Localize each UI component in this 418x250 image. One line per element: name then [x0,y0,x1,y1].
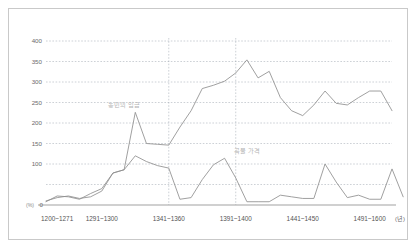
y-axis-tick-label: 150 [32,140,43,147]
y-axis-tick-label: 400 [32,37,43,44]
y-axis-labels-group: (%)0100150200250300350400 [26,37,44,208]
gridlines-group [46,41,392,185]
series-lines-group [46,60,403,202]
y-axis-tick-label: 350 [32,58,43,65]
series-labels-group: 농민의 임금곡물 가격 [108,101,260,154]
series-label: 곡물 가격 [234,147,260,155]
y-axis-unit-label: (%) [26,202,34,208]
y-axis-tick-label: 100 [32,160,43,167]
series-line [46,60,392,201]
x-axis-tick-label: 1291~1300 [86,215,119,222]
y-axis-tick-label: 300 [32,78,43,85]
line-chart: (%)0100150200250300350400 1200~12711291~… [0,0,418,250]
y-axis-tick-label: 200 [32,119,43,126]
series-line [46,156,403,202]
x-axis-unit-label: (년) [395,215,405,222]
x-axis-tick-label: 1391~1400 [220,215,253,222]
x-axis-tick-label: 1441~1450 [287,215,320,222]
x-axis-labels-group: 1200~12711291~13001341~13601391~14001441… [41,215,386,222]
x-axis-tick-label: 1341~1360 [153,215,186,222]
y-axis-tick-label: 250 [32,99,43,106]
series-label: 농민의 임금 [108,101,140,109]
chart-container: (%)0100150200250300350400 1200~12711291~… [0,0,418,250]
x-axis-tick-label: 1491~1600 [354,215,387,222]
x-axis-tick-label: 1200~1271 [41,215,74,222]
